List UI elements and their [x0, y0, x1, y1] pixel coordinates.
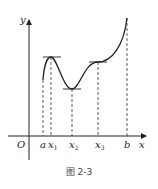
function-graph: y O a x1 x2 x3 b x 图 2-3 — [0, 0, 158, 189]
figure-caption: 图 2-3 — [66, 167, 93, 177]
label-a: a — [40, 139, 46, 150]
label-b: b — [124, 139, 130, 150]
y-axis-label: y — [19, 14, 26, 25]
label-x2: x2 — [69, 139, 79, 151]
function-curve — [43, 18, 127, 89]
label-x1: x1 — [48, 139, 57, 151]
label-x3: x3 — [95, 139, 105, 151]
dashed-guides — [43, 18, 127, 136]
x-axis-label: x — [139, 139, 145, 150]
origin-label: O — [17, 139, 25, 150]
